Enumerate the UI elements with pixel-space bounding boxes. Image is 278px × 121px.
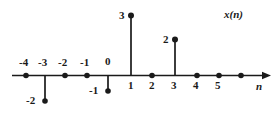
value-label-n-3: 2 xyxy=(163,34,169,45)
sample-dot-n-6 xyxy=(238,73,244,79)
tick-label-n-minus-1: -1 xyxy=(80,57,89,68)
value-label-n-minus-3: -2 xyxy=(26,95,35,106)
value-label-n-1: 3 xyxy=(119,10,125,21)
stem-n-minus-3 xyxy=(42,76,48,104)
signal-name-label: x(n) xyxy=(224,9,243,20)
tick-label-n-minus-2: -2 xyxy=(58,57,67,68)
n-axis-label: n xyxy=(256,81,262,92)
tick-label-n-0: 0 xyxy=(105,56,111,67)
stem-plot-figure: -4 -3 -2 -1 0 1 2 3 4 5 3 2 -1 -2 x(n) n xyxy=(0,0,278,121)
tick-label-n-3: 3 xyxy=(171,80,177,91)
tick-label-n-2: 2 xyxy=(149,80,155,91)
tick-label-n-minus-4: -4 xyxy=(19,57,28,68)
sample-dot-n-minus-1 xyxy=(84,73,90,79)
n-axis xyxy=(12,72,271,79)
tick-label-n-minus-3: -3 xyxy=(38,57,47,68)
sample-dot-n-4 xyxy=(194,73,200,79)
tick-label-n-1: 1 xyxy=(128,80,134,91)
stem-n-0 xyxy=(105,76,111,94)
sample-dot-n-minus-4 xyxy=(23,73,29,79)
tick-label-n-5: 5 xyxy=(215,80,221,91)
sample-dot-n-minus-2 xyxy=(62,73,68,79)
stem-n-1 xyxy=(128,13,134,76)
tick-label-n-4: 4 xyxy=(193,80,199,91)
stem-n-3 xyxy=(172,37,178,76)
sample-dot-n-5 xyxy=(216,73,222,79)
sample-dot-n-2 xyxy=(149,73,155,79)
value-label-n-0: -1 xyxy=(89,85,98,96)
